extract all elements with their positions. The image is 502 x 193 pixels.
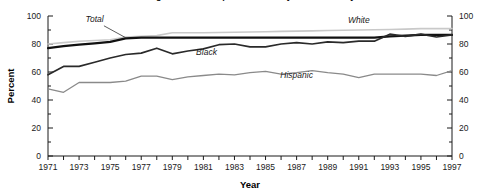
x-tick-label: 1975	[101, 162, 120, 172]
series-group	[48, 29, 452, 93]
left-y-tick-label: 80	[32, 39, 42, 49]
x-axis-title: Year	[240, 179, 260, 190]
left-y-tick-label: 40	[32, 95, 42, 105]
left-y-tick-label: 100	[27, 11, 41, 21]
x-tick-label: 1971	[39, 162, 58, 172]
right-y-tick-label: 60	[459, 67, 469, 77]
right-y-tick-label: 100	[459, 11, 473, 21]
series-label-hispanic: Hispanic	[280, 70, 313, 80]
line-chart-plot: 0020204040606080801001001971197319751977…	[0, 0, 502, 193]
x-tick-label: 1973	[70, 162, 89, 172]
series-label-white: White	[348, 15, 370, 25]
x-tick-label: 1987	[287, 162, 306, 172]
chart-container: High school completion rates by race/eth…	[0, 0, 502, 193]
x-tick-label: 1993	[380, 162, 399, 172]
x-tick-label: 1983	[225, 162, 244, 172]
series-label-total: Total	[86, 14, 105, 24]
right-y-tick-label: 0	[459, 151, 464, 161]
left-y-tick-label: 60	[32, 67, 42, 77]
right-y-tick-label: 40	[459, 95, 469, 105]
right-y-tick-label: 80	[459, 39, 469, 49]
leader-line-total	[104, 26, 126, 38]
left-y-tick-label: 0	[36, 151, 41, 161]
x-tick-label: 1991	[349, 162, 368, 172]
series-label-black: Black	[196, 47, 218, 57]
x-tick-label: 1989	[318, 162, 337, 172]
left-y-tick-label: 20	[32, 123, 42, 133]
x-tick-label: 1979	[163, 162, 182, 172]
series-line-hispanic	[48, 71, 452, 93]
series-labels-group: WhiteTotalBlackHispanic	[86, 14, 370, 79]
x-tick-label: 1995	[411, 162, 430, 172]
x-tick-label: 1985	[256, 162, 275, 172]
right-y-tick-label: 20	[459, 123, 469, 133]
y-axis-title: Percent	[5, 68, 16, 104]
x-tick-label: 1977	[132, 162, 151, 172]
x-tick-label: 1997	[443, 162, 462, 172]
x-tick-label: 1981	[194, 162, 213, 172]
